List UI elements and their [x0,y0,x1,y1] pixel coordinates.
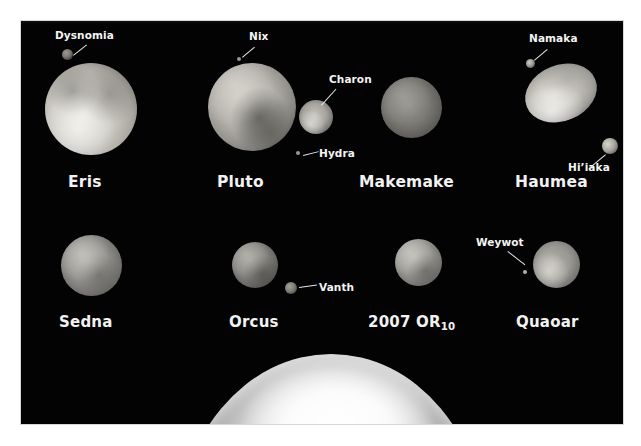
body-orcus [232,242,278,288]
earth-limb-highlight [176,354,486,424]
body-label-pluto: Pluto [217,173,264,191]
figure-stage: Dysnomia Eris Nix Charon Hydra Pluto Mak… [0,0,641,446]
body-makemake [381,77,442,138]
moon-charon [299,100,333,134]
comparison-panel: Dysnomia Eris Nix Charon Hydra Pluto Mak… [21,21,623,424]
moon-label-dysnomia: Dysnomia [55,29,114,41]
moon-hiiaka [602,138,618,154]
leader-dysnomia [73,45,87,56]
leader-charon [321,89,336,106]
moon-weywot [523,270,527,274]
leader-nix [242,47,255,58]
leader-weywot [507,251,525,265]
body-pluto [208,63,296,151]
moon-hydra [296,151,300,155]
body-label-2007-or10: 2007 OR10 [368,313,455,332]
moon-label-charon: Charon [329,73,372,85]
body-eris [45,63,137,155]
moon-dysnomia [62,49,73,60]
body-label-2007-or10-sub: 10 [441,321,456,332]
body-label-sedna: Sedna [59,313,113,331]
body-label-makemake: Makemake [359,173,454,191]
moon-label-namaka: Namaka [529,32,578,44]
body-label-haumea: Haumea [515,173,588,191]
moon-vanth [285,282,297,294]
moon-nix [237,57,241,61]
body-sedna [61,235,122,296]
body-label-orcus: Orcus [229,313,279,331]
moon-label-vanth: Vanth [319,281,354,293]
moon-label-nix: Nix [249,30,268,42]
moon-label-weywot: Weywot [476,236,524,248]
leader-vanth [299,284,317,287]
moon-label-hiiaka: Hi’iaka [568,161,610,173]
body-label-2007-or10-text: 2007 OR [368,313,441,331]
moon-label-hydra: Hydra [319,147,355,159]
body-label-eris: Eris [68,173,102,191]
body-2007-or10 [395,239,442,286]
body-label-quaoar: Quaoar [516,313,579,331]
leader-hydra [303,151,319,156]
body-earth [176,354,486,424]
body-quaoar [533,241,580,288]
leader-namaka [534,49,548,61]
